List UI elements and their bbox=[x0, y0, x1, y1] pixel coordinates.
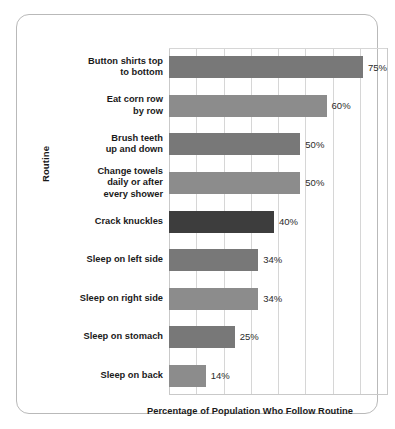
category-label: Crack knuckles bbox=[53, 202, 163, 241]
category-label: Sleep on back bbox=[53, 356, 163, 395]
bar-value-label: 25% bbox=[240, 332, 259, 342]
bar-row: 25% bbox=[169, 326, 387, 348]
bar-value-label: 40% bbox=[279, 217, 298, 227]
clipped-top-caption bbox=[188, 0, 395, 4]
bar-row: 34% bbox=[169, 249, 387, 271]
bar[interactable] bbox=[169, 133, 300, 155]
chart-card: Routine Button shirts top to bottomEat c… bbox=[16, 14, 378, 414]
category-label: Eat corn row by row bbox=[53, 87, 163, 126]
category-label: Button shirts top to bottom bbox=[53, 48, 163, 87]
bar-value-label: 75% bbox=[368, 63, 387, 73]
bar[interactable] bbox=[169, 211, 274, 233]
plot-area: 75%60%50%50%40%34%34%25%14% bbox=[169, 48, 387, 395]
x-axis-title: Percentage of Population Who Follow Rout… bbox=[135, 406, 365, 416]
gridline bbox=[387, 48, 388, 395]
category-label: Sleep on stomach bbox=[53, 318, 163, 357]
category-label: Sleep on right side bbox=[53, 279, 163, 318]
bar-row: 50% bbox=[169, 172, 387, 194]
bar[interactable] bbox=[169, 95, 327, 117]
bar-value-label: 14% bbox=[211, 371, 230, 381]
bar-row: 40% bbox=[169, 211, 387, 233]
bar-value-label: 34% bbox=[263, 294, 282, 304]
category-label: Change towels daily or after every showe… bbox=[53, 164, 163, 203]
bar[interactable] bbox=[169, 172, 300, 194]
bar[interactable] bbox=[169, 326, 235, 348]
bar-row: 75% bbox=[169, 56, 387, 78]
bar-value-label: 50% bbox=[305, 140, 324, 150]
bar-rows: 75%60%50%50%40%34%34%25%14% bbox=[169, 48, 387, 395]
bar[interactable] bbox=[169, 288, 258, 310]
bar-row: 14% bbox=[169, 365, 387, 387]
bar[interactable] bbox=[169, 56, 363, 78]
category-axis-labels: Button shirts top to bottomEat corn row … bbox=[53, 48, 163, 395]
category-label: Brush teeth up and down bbox=[53, 125, 163, 164]
bar-row: 34% bbox=[169, 288, 387, 310]
bar-value-label: 50% bbox=[305, 178, 324, 188]
bar-row: 50% bbox=[169, 133, 387, 155]
category-label: Sleep on left side bbox=[53, 241, 163, 280]
bar[interactable] bbox=[169, 365, 206, 387]
y-axis-title: Routine bbox=[40, 124, 51, 204]
bar[interactable] bbox=[169, 249, 258, 271]
bar-row: 60% bbox=[169, 95, 387, 117]
bar-value-label: 34% bbox=[263, 255, 282, 265]
bar-value-label: 60% bbox=[332, 101, 351, 111]
